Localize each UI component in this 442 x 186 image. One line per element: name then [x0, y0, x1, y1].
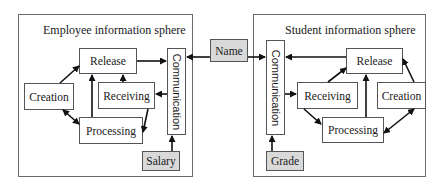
- grade-label: Grade: [271, 155, 299, 167]
- employee-communication-label: Communication: [171, 53, 183, 129]
- employee-processing-node: Processing: [79, 117, 143, 144]
- employee-receiving-node: Receiving: [98, 82, 155, 109]
- employee-communication-node: Communication: [167, 48, 186, 135]
- employee-processing-label: Processing: [86, 125, 136, 137]
- student-release-node: Release: [346, 48, 403, 74]
- salary-input-node: Salary: [142, 151, 180, 171]
- employee-release-label: Release: [90, 55, 126, 67]
- employee-creation-node: Creation: [24, 83, 74, 110]
- student-processing-label: Processing: [328, 124, 378, 136]
- employee-creation-label: Creation: [29, 91, 69, 103]
- name-shared-node: Name: [210, 39, 248, 62]
- name-label: Name: [215, 45, 242, 57]
- student-processing-node: Processing: [322, 117, 384, 143]
- employee-sphere-title: Employee information sphere: [43, 23, 186, 38]
- student-sphere-title: Student information sphere: [285, 23, 416, 38]
- student-communication-label: Communication: [270, 49, 282, 125]
- student-receiving-node: Receiving: [297, 82, 358, 109]
- student-release-label: Release: [357, 55, 393, 67]
- student-communication-node: Communication: [266, 40, 285, 135]
- student-creation-label: Creation: [382, 90, 422, 102]
- grade-input-node: Grade: [266, 151, 304, 171]
- salary-label: Salary: [146, 155, 175, 167]
- student-creation-node: Creation: [377, 82, 426, 109]
- employee-release-node: Release: [79, 48, 137, 74]
- student-receiving-label: Receiving: [304, 90, 351, 102]
- employee-receiving-label: Receiving: [103, 90, 150, 102]
